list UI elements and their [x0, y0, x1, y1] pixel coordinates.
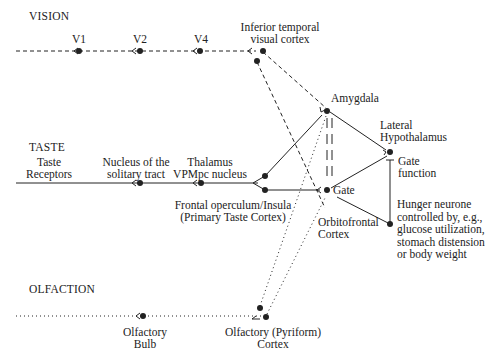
- label-taste-receptors: Taste Receptors: [14, 156, 84, 180]
- amygdala-to-lh-line: [330, 112, 386, 150]
- node-v2: [137, 48, 143, 54]
- label-lateral-hypothalamus: Lateral Hypothalamus: [380, 119, 447, 143]
- node-lateral-hypothalamus: [387, 149, 393, 155]
- label-inferior-temporal: Inferior temporal visual cortex: [228, 21, 332, 45]
- node-pyriform-b: [263, 314, 269, 320]
- fop-to-amygdala-line: [265, 115, 322, 176]
- label-v1: V1: [72, 33, 86, 45]
- node-v1: [76, 48, 82, 54]
- it-to-amygdala-line: [263, 52, 326, 108]
- node-pyriform-a: [257, 305, 263, 311]
- section-olfaction: OLFACTION: [29, 283, 95, 295]
- node-fop-lower: [262, 187, 268, 193]
- label-v4: V4: [194, 33, 208, 45]
- node-thalamus: [198, 180, 204, 186]
- label-amygdala: Amygdala: [331, 92, 379, 104]
- node-v4: [197, 48, 203, 54]
- label-pyriform-cortex: Olfactory (Pyriform) Cortex: [218, 326, 328, 350]
- node-olfactory-bulb: [140, 313, 146, 319]
- label-orbitofrontal: Orbitofrontal Cortex: [318, 216, 379, 240]
- arrow-olf-bulb: [136, 313, 140, 319]
- node-hunger: [387, 221, 393, 227]
- label-gate-function: Gate function: [398, 155, 436, 179]
- label-hunger-neurone: Hunger neurone controlled by, e.g., gluc…: [397, 198, 485, 261]
- node-amygdala: [324, 108, 330, 114]
- label-v2: V2: [133, 33, 147, 45]
- arrow-lh-from-amyg: [383, 150, 386, 155]
- node-nts: [137, 180, 143, 186]
- label-gate: Gate: [333, 184, 355, 196]
- section-taste: TASTE: [29, 141, 65, 153]
- node-ofc-gate: [324, 187, 330, 193]
- node-fop-upper: [262, 173, 268, 179]
- label-nucleus-solitary: Nucleus of the solitary tract: [96, 156, 176, 180]
- node-it-b: [254, 58, 260, 64]
- arrow-pyriform: [252, 316, 260, 319]
- node-it-a: [260, 48, 266, 54]
- section-vision: VISION: [29, 10, 69, 22]
- it-to-ofc-line: [257, 62, 325, 208]
- label-olfactory-bulb: Olfactory Bulb: [110, 326, 180, 350]
- label-frontal-operculum: Frontal operculum/Insula (Primary Taste …: [168, 199, 298, 223]
- label-thalamus: Thalamus VPMpc nucleus: [170, 156, 250, 180]
